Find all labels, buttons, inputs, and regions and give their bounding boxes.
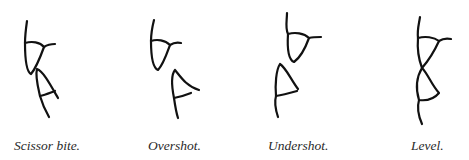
- scissor-bite-drawing: [25, 21, 58, 117]
- level-upper-tooth: [418, 37, 439, 68]
- undershot-upper-gum: [309, 37, 321, 38]
- caption-scissor-bite: Scissor bite.: [14, 138, 80, 154]
- overshot-lower-jaw: [174, 98, 178, 118]
- level-lower-tooth: [417, 68, 439, 100]
- caption-level: Level.: [411, 138, 444, 154]
- scissor-upper-jaw: [25, 21, 27, 43]
- caption-overshot: Overshot.: [148, 138, 201, 154]
- level-upper-jaw: [418, 17, 420, 38]
- bite-drawings: [0, 0, 469, 160]
- scissor-upper-tooth: [25, 42, 44, 74]
- undershot-upper-tooth: [288, 33, 309, 62]
- level-upper-gum: [439, 39, 451, 41]
- overshot-lower-tooth: [172, 70, 199, 98]
- caption-undershot: Undershot.: [268, 138, 328, 154]
- scissor-upper-gum: [44, 44, 55, 47]
- scissor-lower-jaw: [40, 96, 49, 117]
- bite-types-diagram: Scissor bite. Overshot. Undershot. Level…: [0, 0, 469, 160]
- overshot-upper-gum: [170, 43, 181, 45]
- overshot-drawing: [151, 20, 199, 118]
- level-drawing: [417, 17, 451, 124]
- undershot-drawing: [275, 13, 321, 117]
- scissor-lower-tooth: [36, 69, 58, 98]
- undershot-lower-tooth: [276, 64, 298, 96]
- overshot-upper-jaw: [151, 20, 154, 41]
- overshot-upper-tooth: [151, 40, 170, 70]
- undershot-lower-jaw: [275, 96, 278, 117]
- undershot-upper-jaw: [286, 13, 288, 34]
- level-lower-jaw: [418, 100, 422, 124]
